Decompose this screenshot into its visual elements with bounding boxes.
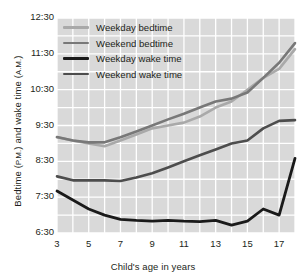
legend-label: Weekend wake time — [96, 69, 182, 80]
legend-label: Weekend bedtime — [96, 38, 173, 49]
legend-item-weekend-wake-time[interactable]: Weekend wake time — [63, 69, 182, 80]
legend-swatch — [63, 26, 89, 29]
x-axis-title-wrap: Child's age in years — [0, 256, 306, 274]
legend-swatch — [63, 57, 89, 60]
x-tick-label: 17 — [274, 238, 285, 249]
x-tick-label: 11 — [179, 238, 189, 249]
x-tick-label: 9 — [150, 238, 155, 249]
x-axis-title: Child's age in years — [111, 261, 196, 272]
x-tick-label: 15 — [242, 238, 253, 249]
legend-label: Weekday bedtime — [96, 22, 173, 33]
x-axis-tick-labels: 357911131517 — [0, 236, 306, 254]
x-tick-label: 7 — [118, 238, 123, 249]
legend-swatch — [63, 73, 89, 76]
legend-label: Weekday wake time — [96, 53, 182, 64]
legend-item-weekday-wake-time[interactable]: Weekday wake time — [63, 53, 182, 64]
x-tick-label: 13 — [210, 238, 221, 249]
legend-item-weekend-bedtime[interactable]: Weekend bedtime — [63, 38, 173, 49]
x-tick-label: 5 — [86, 238, 91, 249]
x-tick-label: 3 — [54, 238, 59, 249]
legend-item-weekday-bedtime[interactable]: Weekday bedtime — [63, 22, 173, 33]
sleep-times-line-chart: Bedtime (P.M.) and wake time (A.M.) 12:3… — [0, 0, 306, 278]
legend-swatch — [63, 42, 89, 45]
